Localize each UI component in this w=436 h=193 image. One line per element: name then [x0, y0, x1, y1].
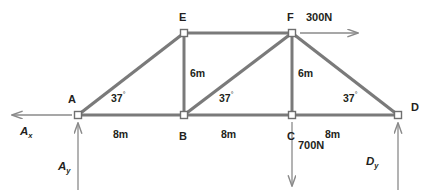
dimension-label-height-F-C: 6m — [298, 68, 313, 79]
reaction-label-Ax: Ax — [20, 126, 32, 140]
truss-diagram: A B C D E F 8m 8m 8m 6m 6m 37° 37° 37° 3… — [0, 0, 436, 193]
dimension-label-span-B-C: 8m — [221, 129, 236, 140]
reaction-subscript-Ax: x — [28, 131, 32, 140]
degree-icon: ° — [123, 91, 126, 98]
joint-marker-D — [395, 112, 402, 119]
angle-value-at-B: 37 — [219, 92, 231, 104]
degree-icon: ° — [231, 91, 234, 98]
load-label-300N: 300N — [306, 12, 332, 23]
angle-value-at-A: 37 — [111, 92, 123, 104]
angle-label-at-D: 37° — [343, 91, 358, 103]
reaction-subscript-Ay: y — [66, 166, 70, 175]
load-label-700N: 700N — [298, 140, 324, 151]
joint-marker-A — [75, 112, 82, 119]
node-label-D: D — [411, 102, 419, 113]
node-label-E: E — [179, 12, 186, 23]
reaction-label-Dy: Dy — [366, 156, 378, 170]
angle-label-at-A: 37° — [111, 91, 126, 103]
joint-marker-F — [289, 30, 296, 37]
node-label-F: F — [287, 12, 294, 23]
reaction-label-Ay: Ay — [58, 161, 70, 175]
angle-label-at-B: 37° — [219, 91, 234, 103]
node-label-A: A — [68, 94, 76, 105]
node-label-C: C — [287, 131, 295, 142]
joint-marker-E — [181, 30, 188, 37]
degree-icon: ° — [355, 91, 358, 98]
dimension-label-height-E-B: 6m — [190, 68, 205, 79]
reaction-subscript-Dy: y — [374, 161, 378, 170]
joint-marker-B — [181, 112, 188, 119]
dimension-label-span-A-B: 8m — [113, 129, 128, 140]
joint-marker-C — [289, 112, 296, 119]
angle-value-at-D: 37 — [343, 92, 355, 104]
node-label-B: B — [179, 131, 187, 142]
dimension-label-span-C-D: 8m — [325, 129, 340, 140]
member-A-E — [78, 33, 184, 115]
